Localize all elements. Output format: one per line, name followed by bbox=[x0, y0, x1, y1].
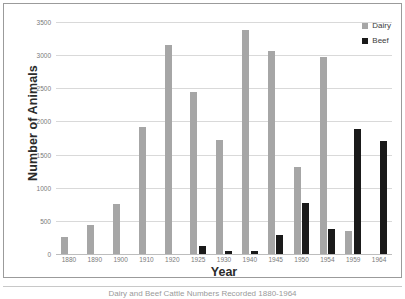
bar-group bbox=[113, 22, 129, 254]
bar-dairy-1954 bbox=[320, 57, 327, 254]
bar-beef-1945 bbox=[276, 235, 283, 254]
bar-beef-1940 bbox=[251, 251, 258, 254]
bar-beef-1925 bbox=[199, 246, 206, 254]
x-axis-title: Year bbox=[56, 265, 392, 279]
beef-swatch-icon bbox=[362, 38, 368, 44]
x-tick-label: 1959 bbox=[346, 256, 360, 263]
bar-dairy-1940 bbox=[242, 30, 249, 254]
legend-label: Dairy bbox=[372, 21, 391, 30]
y-tick-label: 0 bbox=[47, 251, 51, 258]
bar-dairy-1920 bbox=[165, 45, 172, 254]
bar-group bbox=[139, 22, 155, 254]
caption-divider bbox=[3, 286, 402, 287]
bar-dairy-1930 bbox=[216, 140, 223, 254]
bar-group bbox=[320, 22, 336, 254]
bar-beef-1959 bbox=[354, 129, 361, 254]
y-tick-label: 2000 bbox=[37, 118, 51, 125]
y-tick-label: 500 bbox=[40, 217, 51, 224]
bar-dairy-1959 bbox=[345, 231, 352, 254]
bar-beef-1950 bbox=[302, 203, 309, 254]
bar-group bbox=[87, 22, 103, 254]
x-tick-label: 1940 bbox=[243, 256, 257, 263]
bar-beef-1964 bbox=[380, 141, 387, 254]
dairy-swatch-icon bbox=[362, 23, 368, 29]
bar-group bbox=[345, 22, 361, 254]
x-tick-label: 1920 bbox=[165, 256, 179, 263]
bar-group bbox=[61, 22, 77, 254]
figure-container: Number of Animals 0500100015002000250030… bbox=[0, 0, 405, 299]
x-tick-label: 1900 bbox=[113, 256, 127, 263]
bar-group bbox=[190, 22, 206, 254]
gridline bbox=[56, 254, 392, 255]
x-tick-label: 1925 bbox=[191, 256, 205, 263]
x-tick-label: 1945 bbox=[268, 256, 282, 263]
plot-area: 0500100015002000250030003500 bbox=[56, 22, 392, 254]
y-tick-label: 2500 bbox=[37, 85, 51, 92]
x-tick-label: 1930 bbox=[217, 256, 231, 263]
y-tick-label: 1500 bbox=[37, 151, 51, 158]
bar-group bbox=[242, 22, 258, 254]
y-tick-label: 1000 bbox=[37, 184, 51, 191]
legend-label: Beef bbox=[372, 36, 388, 45]
bar-group bbox=[294, 22, 310, 254]
y-tick-label: 3000 bbox=[37, 52, 51, 59]
x-tick-label: 1890 bbox=[88, 256, 102, 263]
legend-item-beef[interactable]: Beef bbox=[362, 36, 391, 45]
bar-group bbox=[268, 22, 284, 254]
chart-legend: DairyBeef bbox=[362, 21, 391, 45]
legend-item-dairy[interactable]: Dairy bbox=[362, 21, 391, 30]
x-tick-label: 1954 bbox=[320, 256, 334, 263]
chart-frame: Number of Animals 0500100015002000250030… bbox=[3, 3, 402, 278]
x-tick-label: 1880 bbox=[62, 256, 76, 263]
bar-dairy-1925 bbox=[190, 92, 197, 254]
bar-beef-1954 bbox=[328, 229, 335, 254]
bar-dairy-1945 bbox=[268, 51, 275, 254]
bar-dairy-1890 bbox=[87, 225, 94, 254]
x-tick-label: 1964 bbox=[372, 256, 386, 263]
bar-group bbox=[371, 22, 387, 254]
bar-dairy-1880 bbox=[61, 237, 68, 254]
y-tick-label: 3500 bbox=[37, 19, 51, 26]
bar-dairy-1910 bbox=[139, 127, 146, 254]
x-tick-label: 1910 bbox=[139, 256, 153, 263]
bar-group bbox=[216, 22, 232, 254]
bar-group bbox=[165, 22, 181, 254]
x-tick-label: 1950 bbox=[294, 256, 308, 263]
bar-dairy-1900 bbox=[113, 204, 120, 254]
bars-layer bbox=[56, 22, 392, 254]
bar-dairy-1950 bbox=[294, 167, 301, 254]
bar-beef-1930 bbox=[225, 251, 232, 254]
figure-caption: Dairy and Beef Cattle Numbers Recorded 1… bbox=[3, 289, 402, 298]
